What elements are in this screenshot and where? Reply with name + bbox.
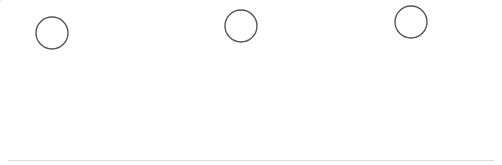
panel-label-circle-b	[225, 10, 257, 42]
panel-label-circle-c	[395, 6, 427, 38]
panel-label-b	[225, 10, 257, 42]
figure-canvas	[0, 0, 502, 165]
porous-blocks-figure	[0, 0, 502, 165]
panel-label-a	[36, 17, 68, 49]
panel-label-c	[395, 6, 427, 38]
panel-label-circle-a	[36, 17, 68, 49]
